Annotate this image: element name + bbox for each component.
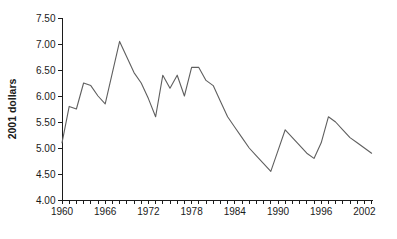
x-tick-label: 1990 — [267, 206, 290, 217]
y-tick-label: 6.00 — [36, 91, 56, 102]
plot-area: 2001 dollars 7.507.006.506.005.505.004.5… — [0, 0, 397, 239]
x-tick-label: 1966 — [94, 206, 117, 217]
x-tick-label: 1978 — [180, 206, 203, 217]
axes — [58, 18, 373, 204]
x-tick-label: 1996 — [310, 206, 333, 217]
x-tick-label: 1972 — [137, 206, 160, 217]
y-tick-label: 4.50 — [36, 169, 56, 180]
tick-labels: 7.507.006.506.005.505.004.504.0019601966… — [36, 13, 376, 217]
y-tick-label: 5.00 — [36, 143, 56, 154]
line-chart-figure: 2001 dollars 7.507.006.506.005.505.004.5… — [0, 0, 397, 239]
y-tick-label: 7.00 — [36, 39, 56, 50]
x-tick-label: 1960 — [51, 206, 74, 217]
y-tick-label: 5.50 — [36, 117, 56, 128]
y-tick-label: 6.50 — [36, 65, 56, 76]
y-axis-title: 2001 dollars — [6, 78, 18, 139]
y-tick-label: 4.00 — [36, 195, 56, 206]
y-tick-label: 7.50 — [36, 13, 56, 24]
x-tick-label: 2002 — [353, 206, 376, 217]
data-line — [62, 41, 372, 171]
x-tick-label: 1984 — [224, 206, 247, 217]
